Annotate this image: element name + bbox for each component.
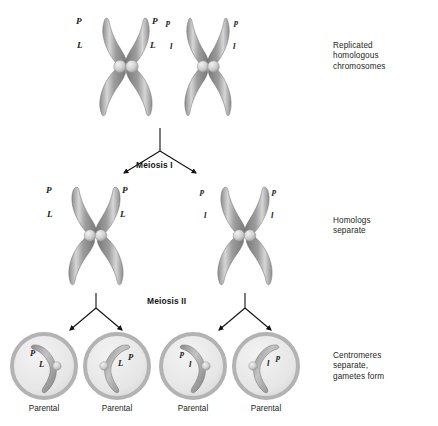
allele-mid-right-upper-right: p (272, 186, 276, 196)
gamete-caption-4: Parental (234, 404, 298, 413)
allele-gamete-2-b: P (128, 352, 133, 362)
allele-top-left-upper-right: P (152, 16, 158, 26)
allele-top-right-upper-right: p (234, 17, 238, 27)
annotation-centromeres-separate: Centromeres separate, gametes form (333, 351, 384, 382)
chromosome-mid-right (218, 187, 272, 285)
allele-top-left-lower-right: L (150, 40, 156, 50)
meiosis-ii-label: Meiosis II (147, 296, 186, 306)
chromosome-top-left (100, 18, 152, 116)
gamete-caption-2: Parental (85, 404, 149, 413)
allele-mid-right-upper-left: p (200, 186, 204, 196)
allele-mid-left-upper-left: P (46, 185, 52, 195)
gamete-caption-1: Parental (12, 404, 76, 413)
allele-mid-left-lower-right: L (120, 209, 126, 219)
allele-mid-right-lower-right: l (271, 210, 273, 220)
annotation-replicated-chromosomes: Replicated homologous chromosomes (333, 41, 386, 72)
meiosis-ii-arrows-left (70, 293, 122, 330)
gamete-cell-3 (161, 334, 225, 398)
allele-gamete-1-b: L (39, 359, 44, 369)
allele-top-right-lower-left: l (170, 41, 172, 51)
allele-top-right-lower-right: l (233, 41, 235, 51)
gamete-cell-4 (234, 334, 298, 398)
chromosome-top-right (185, 18, 231, 116)
annotation-homologs-separate: Homologs separate (333, 216, 371, 237)
allele-gamete-4-b: p (276, 352, 280, 362)
allele-mid-left-upper-right: P (122, 185, 128, 195)
meiosis-i-label: Meiosis I (136, 160, 173, 170)
gamete-caption-3: Parental (161, 404, 225, 413)
gamete-cell-2 (85, 334, 149, 398)
allele-gamete-1-a: P (30, 348, 35, 358)
allele-top-right-upper-left: p (166, 17, 170, 27)
chromosome-mid-left (69, 187, 123, 285)
allele-top-left-upper-left: P (76, 16, 82, 26)
allele-gamete-3-b: l (189, 359, 191, 369)
allele-gamete-4-a: l (267, 358, 269, 368)
allele-top-left-lower-left: L (77, 40, 83, 50)
allele-gamete-3-a: p (180, 348, 184, 358)
allele-mid-right-lower-left: l (204, 210, 206, 220)
meiosis-diagram: P P L L p p l l P P L L p p l l P L L P … (0, 0, 438, 426)
meiosis-ii-arrows-right (219, 293, 271, 330)
allele-gamete-2-a: L (118, 358, 123, 368)
allele-mid-left-lower-left: L (47, 209, 53, 219)
